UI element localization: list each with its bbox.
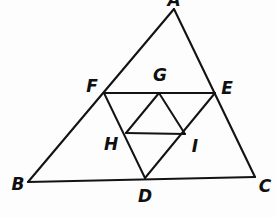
vertex-label-F: F bbox=[86, 78, 98, 95]
vertex-label-D: D bbox=[138, 188, 152, 205]
vertex-label-H: H bbox=[104, 136, 118, 153]
segment-GH bbox=[126, 93, 159, 133]
segment-HI bbox=[126, 133, 185, 134]
vertex-label-E: E bbox=[221, 80, 233, 97]
segment-AB bbox=[28, 9, 174, 182]
vertex-label-C: C bbox=[259, 178, 271, 195]
vertex-label-B: B bbox=[12, 176, 25, 193]
segment-DE bbox=[145, 93, 215, 178]
geometry-figure: A B C D E F G H I bbox=[0, 0, 276, 217]
segment-GI bbox=[159, 93, 185, 134]
segment-BC bbox=[28, 177, 255, 182]
vertex-label-I: I bbox=[192, 138, 198, 155]
triangle-diagram bbox=[0, 0, 276, 217]
vertex-label-G: G bbox=[153, 67, 167, 84]
vertex-label-A: A bbox=[167, 0, 180, 9]
